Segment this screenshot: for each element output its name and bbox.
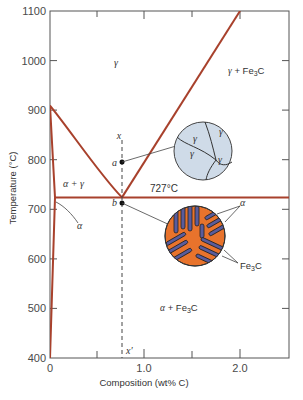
a3-boundary xyxy=(50,106,122,198)
label-x-prime: x′ xyxy=(125,345,133,356)
y-tick-1100: 1100 xyxy=(22,5,46,17)
y-tick-900: 900 xyxy=(28,104,46,116)
label-b: b xyxy=(112,197,117,208)
label-gamma-fe3c: γ + Fe3C xyxy=(228,65,265,77)
phase-diagram: 1100 1000 900 800 700 600 500 400 0 1.0 … xyxy=(0,0,303,400)
y-axis-title: Temperature (°C) xyxy=(7,152,18,225)
label-gamma-region: γ xyxy=(114,57,119,68)
label-alpha-gamma: α + γ xyxy=(63,178,85,189)
y-tick-600: 600 xyxy=(28,253,46,265)
x-tick-2: 2.0 xyxy=(232,362,247,374)
x-axis-title: Composition (wt% C) xyxy=(99,377,188,388)
pearlite-inset: α Fe3C xyxy=(165,197,262,272)
y-tick-800: 800 xyxy=(28,154,46,166)
y-tick-700: 700 xyxy=(28,203,46,215)
y-tick-500: 500 xyxy=(28,302,46,314)
label-a: a xyxy=(112,157,117,168)
label-alpha-fe3c: α + Fe3C xyxy=(160,302,198,314)
alpha-boundary xyxy=(50,106,55,358)
x-tick-0: 0 xyxy=(47,362,53,374)
leader-a xyxy=(122,146,176,162)
pearlite-alpha-label: α xyxy=(240,197,246,208)
y-tick-1000: 1000 xyxy=(22,55,46,67)
label-727: 727°C xyxy=(150,183,178,194)
pearlite-fe3c-label: Fe3C xyxy=(240,260,262,272)
x-tick-1: 1.0 xyxy=(136,362,151,374)
label-alpha: α xyxy=(77,220,83,231)
label-x: x xyxy=(116,130,122,141)
leader-b xyxy=(122,203,172,226)
austenite-inset: γ γ γ γ xyxy=(174,122,232,180)
x-tick-labels: 0 1.0 2.0 xyxy=(47,362,248,374)
y-tick-400: 400 xyxy=(28,352,46,364)
y-tick-labels: 1100 1000 900 800 700 600 500 400 xyxy=(22,5,46,364)
alpha-pointer xyxy=(56,202,78,223)
